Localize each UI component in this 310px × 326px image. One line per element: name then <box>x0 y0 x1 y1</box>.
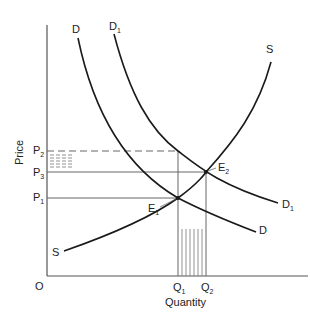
demand-label-d1-right: D1 <box>282 198 294 212</box>
demand-curve-d1 <box>114 34 278 203</box>
equilibrium-label-e2: E2 <box>218 161 229 175</box>
supply-demand-diagram: D D1 S S D1 D E1 E2 P2 P3 P1 Q1 Q2 O Qua… <box>0 0 310 326</box>
quantity-hatching <box>182 229 202 276</box>
supply-label-bottom: S <box>52 246 59 258</box>
y-axis-title: Price <box>13 140 25 165</box>
origin-label: O <box>35 280 44 292</box>
e1-leader-line <box>160 199 176 207</box>
supply-label-top: S <box>266 43 273 55</box>
price-label-p3: P3 <box>33 166 44 180</box>
demand-label-d: D <box>72 23 80 35</box>
quantity-label-q1: Q1 <box>173 281 186 295</box>
equilibrium-point-e2 <box>204 170 208 174</box>
price-label-p2: P2 <box>33 144 44 158</box>
supply-curve-s <box>64 62 271 251</box>
demand-label-d1-top: D1 <box>109 20 121 34</box>
quantity-label-q2: Q2 <box>201 281 214 295</box>
equilibrium-label-e1: E1 <box>148 202 159 216</box>
demand-label-d-right: D <box>259 224 267 236</box>
price-label-p1: P1 <box>33 191 44 205</box>
x-axis-title: Quantity <box>165 296 206 308</box>
price-hatching <box>50 155 73 167</box>
demand-curve-d <box>78 38 256 232</box>
equilibrium-point-e1 <box>176 196 180 200</box>
